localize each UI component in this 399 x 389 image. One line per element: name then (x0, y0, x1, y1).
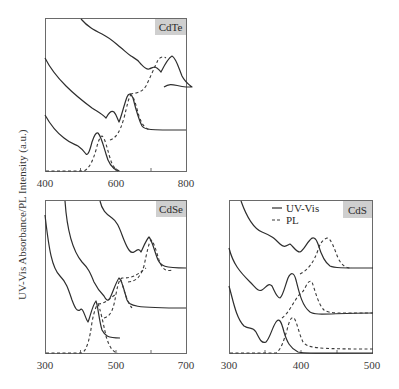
panel-cds: CdS UV-Vis PL 300 400 500 (221, 201, 381, 372)
pl-trace-large (128, 240, 172, 282)
uvvis-trace-medium (45, 58, 186, 130)
x-tick: 500 (364, 359, 381, 371)
plot-frame (46, 19, 187, 172)
uvvis-trace-medium (229, 248, 373, 314)
x-tick: 700 (178, 359, 195, 371)
x-tick: 800 (178, 177, 195, 189)
legend: UV-Vis PL (272, 202, 319, 226)
figure: UV-Vis Absorbance/PL Intensity (a.u.) Cd… (0, 0, 399, 389)
panel-tag: CdTe (159, 21, 183, 33)
panel-cdte: CdTe 400 600 800 (37, 19, 195, 190)
x-tick: 500 (108, 359, 125, 371)
x-tick: 400 (37, 177, 54, 189)
x-tick: 300 (221, 359, 238, 371)
pl-trace-large (130, 57, 166, 94)
panel-cdse: CdSe 300 500 700 (37, 201, 195, 372)
uvvis-trace-small (45, 215, 120, 338)
pl-trace-small (46, 136, 120, 171)
pl-trace-small (46, 304, 118, 353)
pl-trace-medium (110, 95, 150, 140)
uvvis-trace-small (45, 115, 118, 171)
plot-frame (230, 201, 373, 354)
x-tick: 400 (293, 359, 310, 371)
pl-trace-medium (282, 281, 373, 318)
plot-frame (46, 201, 187, 354)
y-axis-label: UV-Vis Absorbance/PL Intensity (a.u.) (16, 129, 29, 300)
x-tick: 300 (37, 359, 54, 371)
legend-pl: PL (286, 214, 299, 226)
pl-trace-small (230, 318, 373, 353)
uvvis-trace-medium (65, 201, 186, 308)
legend-uvvis: UV-Vis (286, 202, 319, 214)
x-tick: 600 (108, 177, 125, 189)
panel-tag: CdS (348, 204, 367, 216)
panel-tag: CdSe (159, 203, 183, 215)
